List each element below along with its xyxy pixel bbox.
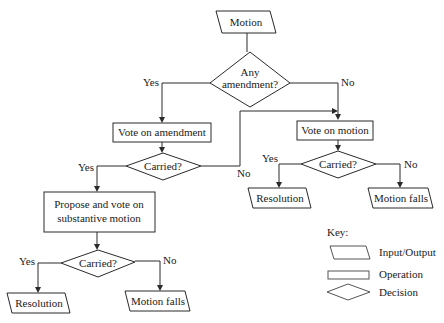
edge-label-no: No xyxy=(341,76,355,88)
node-label: Resolution xyxy=(256,192,304,204)
connector-amendment-yes xyxy=(162,83,210,121)
edge-label-yes: Yes xyxy=(19,255,35,267)
node-label: Motion xyxy=(230,16,263,28)
arrow-head-icon xyxy=(94,186,100,192)
node-motion-falls-left: Motion falls xyxy=(125,291,190,311)
edge-label-yes: Yes xyxy=(262,152,278,164)
node-vote-motion: Vote on motion xyxy=(297,121,373,140)
edge-label-no: No xyxy=(237,167,251,179)
connector-carried-motion-no xyxy=(376,164,400,185)
edge-label-no: No xyxy=(163,254,177,266)
node-label: Resolution xyxy=(15,297,63,309)
node-label: Vote on amendment xyxy=(118,126,206,138)
node-label-line1: Propose and vote on xyxy=(54,198,144,210)
node-label-line2: substantive motion xyxy=(57,212,141,224)
node-any-amendment: Any amendment? xyxy=(210,52,290,107)
node-label: Carried? xyxy=(79,257,117,269)
legend-input-output-icon xyxy=(330,246,370,259)
node-propose-substantive: Propose and vote on substantive motion xyxy=(44,192,155,232)
node-label: Carried? xyxy=(144,160,182,172)
node-resolution-right: Resolution xyxy=(248,188,311,208)
node-resolution-left: Resolution xyxy=(7,293,70,313)
arrow-head-icon xyxy=(159,147,165,153)
arrow-head-icon xyxy=(335,145,341,151)
arrow-head-icon xyxy=(276,182,282,188)
node-label: Motion falls xyxy=(131,295,185,307)
node-motion-falls-right: Motion falls xyxy=(368,188,433,208)
node-label: Vote on motion xyxy=(301,124,369,136)
node-label-line1: Any xyxy=(241,66,260,78)
arrow-head-icon xyxy=(94,244,100,250)
legend-label: Input/Output xyxy=(379,246,436,258)
node-carried-motion: Carried? xyxy=(301,151,376,178)
edge-label-yes: Yes xyxy=(143,76,159,88)
node-motion: Motion xyxy=(216,11,276,33)
node-vote-amendment: Vote on amendment xyxy=(113,123,211,142)
node-label: Carried? xyxy=(319,158,357,170)
node-label: Motion falls xyxy=(374,192,428,204)
legend-label: Operation xyxy=(379,268,423,280)
edge-label-yes: Yes xyxy=(78,161,94,173)
legend-label: Decision xyxy=(379,286,419,298)
arrow-head-icon xyxy=(335,114,341,120)
connector-carried-substantive-yes xyxy=(38,263,61,290)
arrow-head-icon xyxy=(157,285,163,291)
connector-amendment-no xyxy=(290,83,338,118)
connector-carried-amendment-yes xyxy=(97,166,126,190)
arrow-head-icon xyxy=(159,117,165,123)
connector-carried-substantive-no xyxy=(135,261,160,288)
legend-title: Key: xyxy=(327,226,348,238)
arrow-head-icon xyxy=(35,287,41,293)
legend: Key: Input/Output Operation Decision xyxy=(327,226,436,300)
arrow-head-icon xyxy=(397,182,403,188)
arrow-head-icon xyxy=(332,108,338,114)
node-label-line2: amendment? xyxy=(222,78,278,90)
node-carried-amendment: Carried? xyxy=(126,153,201,180)
flowchart: Motion Any amendment? Yes No Vote on ame… xyxy=(0,0,444,323)
legend-operation-icon xyxy=(328,271,369,279)
connector-carried-motion-yes xyxy=(279,164,301,185)
edge-label-no: No xyxy=(404,158,418,170)
legend-decision-icon xyxy=(327,284,370,300)
node-carried-substantive: Carried? xyxy=(61,250,135,277)
